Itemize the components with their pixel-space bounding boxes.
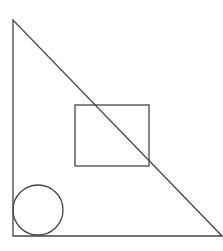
right-triangle xyxy=(13,20,222,236)
geometry-diagram xyxy=(0,0,223,251)
rectangle xyxy=(75,105,149,166)
circle xyxy=(13,185,63,235)
